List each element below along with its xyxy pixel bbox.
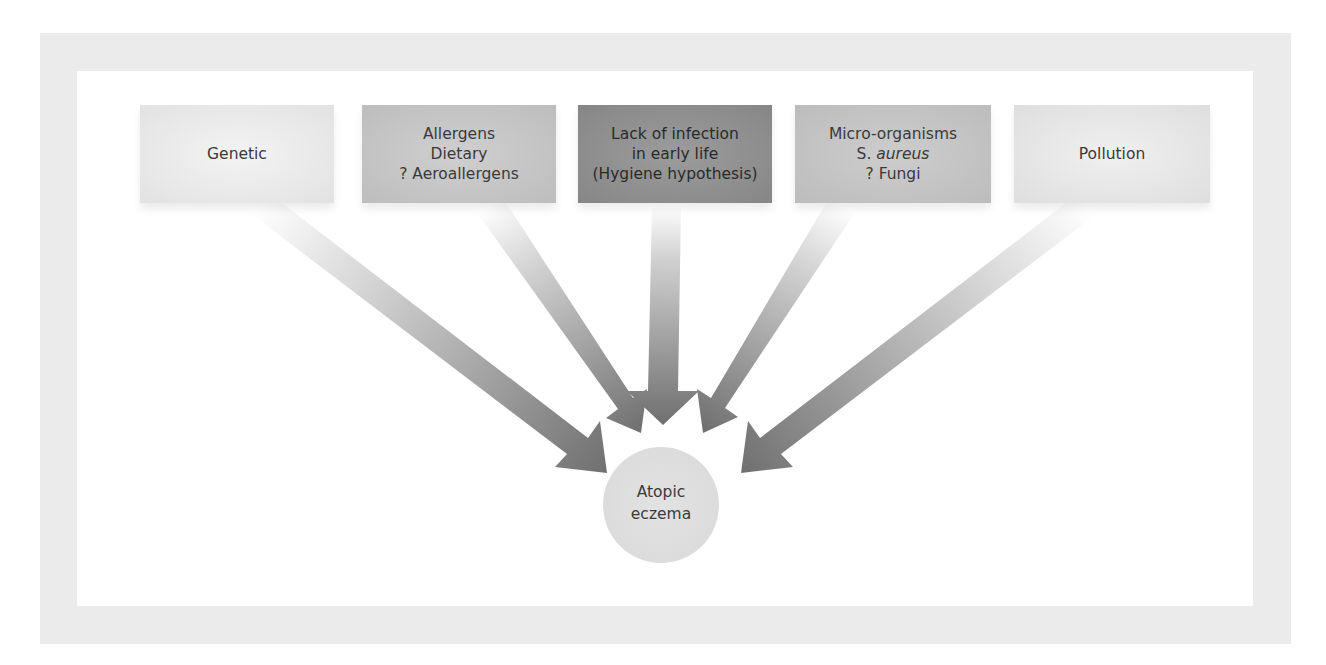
factor-label: ? Aeroallergens	[399, 164, 519, 184]
arrow-hygiene	[627, 208, 699, 425]
factor-label: (Hygiene hypothesis)	[592, 164, 757, 184]
factor-label: Micro-organisms	[829, 124, 957, 144]
outcome-label: Atopic	[631, 481, 691, 503]
factor-label: in early life	[592, 144, 757, 164]
factor-label: Dietary	[399, 144, 519, 164]
factor-genetic: Genetic	[140, 105, 334, 203]
factor-label-species: S. aureus	[829, 144, 957, 164]
factor-label: Genetic	[207, 144, 267, 164]
factor-label: ? Fungi	[829, 164, 957, 184]
arrow-genetic	[254, 194, 607, 473]
factor-label: Lack of infection	[592, 124, 757, 144]
factor-pollution: Pollution	[1014, 105, 1210, 203]
arrows-layer	[0, 0, 1326, 665]
outcome-atopic-eczema: Atopic eczema	[603, 447, 719, 563]
factor-label: Allergens	[399, 124, 519, 144]
factor-micro-organisms: Micro-organisms S. aureus ? Fungi	[795, 105, 991, 203]
factor-label: Pollution	[1079, 144, 1145, 164]
outcome-label: eczema	[631, 503, 691, 525]
arrow-pollution	[741, 194, 1094, 473]
factor-hygiene-hypothesis: Lack of infection in early life (Hygiene…	[578, 105, 772, 203]
factor-allergens: Allergens Dietary ? Aeroallergens	[362, 105, 556, 203]
